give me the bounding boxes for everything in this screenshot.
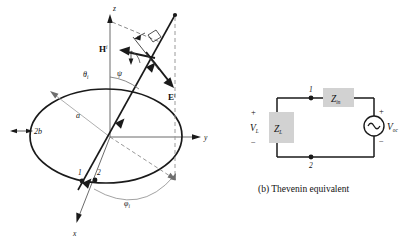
terminal-1-dot — [80, 179, 85, 184]
load-plus-sign: + — [251, 107, 256, 117]
wavefront-tick-arrow — [134, 33, 145, 41]
node-2-dot — [309, 155, 314, 160]
loop-radius-label: a — [76, 111, 80, 120]
node-1-dot — [309, 96, 314, 101]
right-angle-marker — [148, 30, 161, 42]
load-voltage-subscript: L — [255, 128, 259, 134]
input-impedance-subscript: in — [336, 99, 340, 105]
psi-angle-label: ψ — [117, 69, 123, 78]
open-circuit-voltage-label: Voc — [387, 122, 398, 133]
wire-diameter-label: 2b — [34, 127, 42, 136]
terminal-2-dot — [93, 178, 98, 183]
source-plus-sign: + — [379, 106, 384, 116]
e-field-superscript: i — [174, 92, 176, 98]
theta-angle-label: θi — [83, 70, 89, 80]
loop-antenna-diagram: z y x a — [10, 4, 208, 238]
load-minus-sign: − — [251, 137, 256, 147]
e-field-label: Ei — [168, 92, 176, 102]
y-axis-label: y — [203, 133, 208, 142]
loop-radius-indicator — [50, 91, 110, 137]
h-field-symbol: H — [99, 44, 106, 54]
load-impedance-subscript: L — [278, 129, 282, 135]
theta-subscript: i — [87, 74, 89, 80]
z-axis — [107, 14, 113, 137]
figure-svg: z y x a — [0, 0, 414, 242]
h-field-label: Hi — [99, 44, 108, 54]
terminal-1-label: 1 — [78, 168, 82, 177]
ground-projection-dashed — [110, 137, 173, 178]
phi-angle-label: φi — [124, 199, 130, 209]
load-voltage-label: VL — [250, 123, 259, 134]
source-minus-sign: − — [379, 136, 384, 146]
z-axis-label: z — [112, 4, 116, 13]
figure-root: z y x a — [0, 0, 414, 242]
circuit-caption: (b) Thevenin equivalent — [258, 184, 349, 195]
node-1-label: 1 — [309, 85, 313, 94]
thevenin-equivalent-circuit: Zin ZL 1 2 Voc + − — [250, 85, 398, 195]
x-axis-label: x — [72, 229, 77, 238]
wire-diameter-value: 2b — [34, 127, 42, 136]
open-circuit-voltage-subscript: oc — [393, 127, 399, 133]
node-2-label: 2 — [309, 161, 313, 170]
incident-wave-ray — [78, 13, 177, 190]
loop-antenna-ellipse — [30, 89, 182, 183]
y-axis — [110, 134, 201, 140]
phi-subscript: i — [128, 203, 130, 209]
load-impedance-box — [269, 112, 294, 143]
h-field-superscript: i — [106, 44, 108, 50]
terminal-2-label: 2 — [97, 168, 101, 177]
